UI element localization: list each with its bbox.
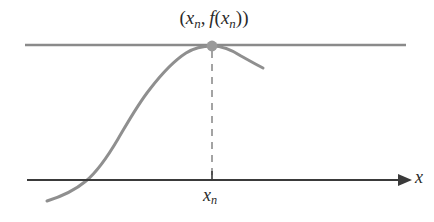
math-figure: (xn, f(xn)) xn x (0, 0, 434, 222)
x-tick-label: xn (0, 186, 434, 207)
x-tick-label-base: x (203, 185, 211, 205)
point-label-close-paren: ) (242, 7, 248, 28)
x-axis-arrowhead (398, 174, 412, 186)
tangency-point-marker (207, 41, 218, 52)
x-tick-label-subscript: n (211, 193, 217, 207)
point-label-comma: , (201, 7, 206, 28)
point-coordinate-label: (xn, f(xn)) (0, 8, 434, 31)
function-curve (47, 46, 263, 201)
x-axis-label: x (415, 168, 423, 186)
